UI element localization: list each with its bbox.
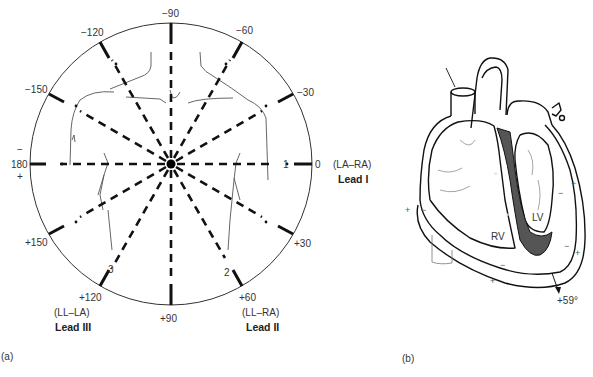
center-point (167, 160, 176, 169)
lead-3-name: Lead III (55, 321, 91, 333)
label-minus-90: −90 (162, 8, 179, 19)
arrow-head-icon (555, 287, 561, 294)
label-minus-60: −60 (236, 25, 253, 36)
label-plus-120: +120 (79, 292, 102, 303)
septum-star-1: * (494, 170, 498, 180)
lead-number-3: 3 (108, 264, 114, 275)
label-minus-30: −30 (297, 87, 314, 98)
plus-sign: + (575, 248, 580, 258)
torso-outline (70, 52, 268, 250)
label-180-minus: − (17, 144, 23, 155)
lead-2-electrodes: (LL–RA) (242, 307, 279, 318)
lead-1-electrodes: (LA–RA) (333, 159, 371, 170)
label-axis-angle: +59° (557, 295, 578, 306)
label-zero: 0 (315, 159, 321, 170)
lead-2-name: Lead II (246, 321, 279, 333)
heart-outline (417, 58, 585, 288)
label-minus-150: −150 (25, 84, 48, 95)
minus-sign: − (564, 241, 569, 251)
hexaxial-diagram: −90 −120 −60 −150 −30 0 +30 +60 +90 +120… (1, 8, 371, 362)
minus-sign: − (500, 260, 505, 270)
caption-b: (b) (402, 353, 414, 364)
ecg-figure: −90 −120 −60 −150 −30 0 +30 +60 +90 +120… (0, 0, 593, 377)
label-plus-150: +150 (25, 237, 48, 248)
label-plus-90: +90 (160, 313, 177, 324)
label-minus-120: −120 (81, 27, 104, 38)
label-plus-60: +60 (239, 292, 256, 303)
label-180-plus: + (17, 171, 23, 182)
label-180: 180 (11, 159, 28, 170)
lead-number-1: 1 (283, 159, 289, 170)
label-lv: LV (532, 212, 544, 223)
lead-number-2: 2 (224, 267, 230, 278)
axis-dots (61, 63, 289, 224)
plus-sign: + (405, 205, 410, 215)
lead-1-name: Lead I (338, 173, 368, 185)
caption-a: (a) (1, 351, 13, 362)
septum-star-2: * (506, 211, 510, 221)
minus-sign: − (421, 205, 426, 215)
minus-sign: − (558, 188, 563, 198)
label-plus-30: +30 (294, 238, 311, 249)
lead-3-electrodes: (LL–LA) (54, 307, 90, 318)
label-rv: RV (491, 231, 505, 242)
heart-diagram: * * RV LV +59° + − + − + − + − + (b) (402, 58, 585, 364)
plus-sign: + (490, 276, 495, 286)
plus-sign: + (571, 179, 576, 189)
septum (497, 128, 552, 255)
